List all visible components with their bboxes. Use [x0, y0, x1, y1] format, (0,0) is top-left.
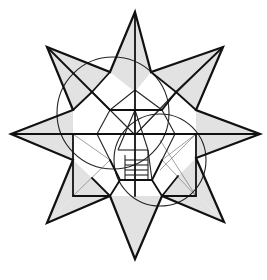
diagram-canvas — [0, 0, 267, 280]
origami-star-diagram — [0, 0, 267, 280]
